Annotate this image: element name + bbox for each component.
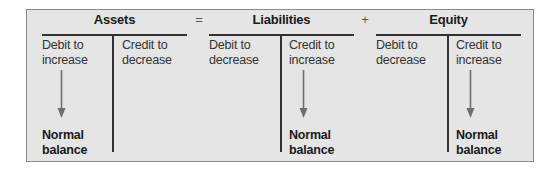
assets-credit-label: Credit to decrease [122, 38, 172, 68]
liabilities-debit-line1: Debit to [209, 38, 259, 53]
normal-balance-line1: Normal [456, 128, 501, 143]
assets-divider [112, 35, 114, 152]
normal-balance-line1: Normal [289, 128, 334, 143]
equity-debit-line1: Debit to [376, 38, 426, 53]
arrow-down-icon [466, 70, 475, 118]
equity-credit-label: Credit to increase [456, 38, 502, 68]
liabilities-credit-line1: Credit to [289, 38, 335, 53]
liabilities-normal-balance: Normal balance [289, 128, 334, 158]
liabilities-title: Liabilities [209, 12, 354, 27]
equity-divider [447, 35, 449, 152]
equals-sign: = [193, 12, 205, 27]
assets-credit-line2: decrease [122, 53, 172, 68]
equity-debit-label: Debit to decrease [376, 38, 426, 68]
normal-balance-line1: Normal [42, 128, 87, 143]
assets-debit-line2: increase [42, 53, 88, 68]
assets-normal-balance: Normal balance [42, 128, 87, 158]
assets-debit-line1: Debit to [42, 38, 88, 53]
plus-sign: + [359, 12, 371, 27]
equity-credit-line1: Credit to [456, 38, 502, 53]
assets-title: Assets [42, 12, 187, 27]
liabilities-credit-label: Credit to increase [289, 38, 335, 68]
normal-balance-line2: balance [456, 143, 501, 158]
equity-title: Equity [376, 12, 521, 27]
arrow-down-icon [299, 70, 308, 118]
assets-debit-label: Debit to increase [42, 38, 88, 68]
normal-balance-line2: balance [42, 143, 87, 158]
liabilities-divider [280, 35, 282, 152]
liabilities-debit-label: Debit to decrease [209, 38, 259, 68]
liabilities-credit-line2: increase [289, 53, 335, 68]
equity-normal-balance: Normal balance [456, 128, 501, 158]
liabilities-debit-line2: decrease [209, 53, 259, 68]
normal-balance-line2: balance [289, 143, 334, 158]
assets-credit-line1: Credit to [122, 38, 172, 53]
equity-debit-line2: decrease [376, 53, 426, 68]
arrow-down-icon [57, 70, 66, 118]
assets-t-line [42, 34, 187, 36]
equity-credit-line2: increase [456, 53, 502, 68]
